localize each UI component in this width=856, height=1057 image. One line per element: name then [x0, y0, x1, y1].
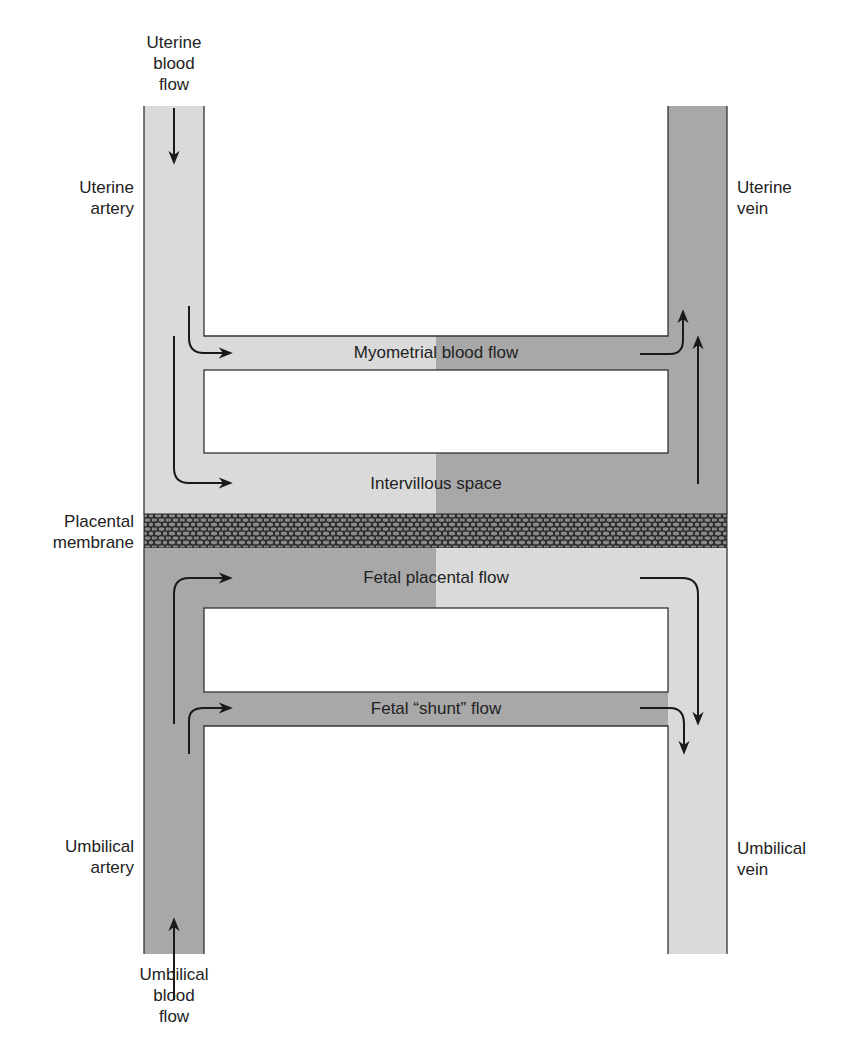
- label-fetal-shunt-flow: Fetal “shunt” flow: [371, 699, 501, 719]
- placental-membrane: [144, 514, 727, 548]
- label-uterine-vein: Uterine vein: [737, 177, 847, 219]
- label-uterine-blood-flow: Uterine blood flow: [124, 32, 224, 95]
- label-intervillous-space: Intervillous space: [370, 474, 501, 494]
- label-myometrial-blood-flow: Myometrial blood flow: [354, 343, 518, 363]
- label-fetal-placental-flow: Fetal placental flow: [363, 568, 509, 588]
- label-umbilical-vein: Umbilical vein: [737, 838, 847, 880]
- label-umbilical-artery: Umbilical artery: [20, 836, 134, 878]
- label-placental-membrane: Placental membrane: [4, 511, 134, 553]
- label-umbilical-blood-flow: Umbilical blood flow: [114, 964, 234, 1027]
- label-uterine-artery: Uterine artery: [30, 177, 134, 219]
